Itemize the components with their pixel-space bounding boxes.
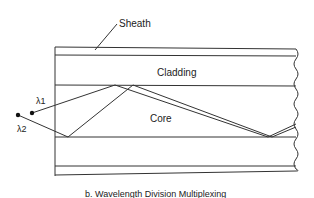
lambda2-ray <box>18 85 296 137</box>
cladding-label: Cladding <box>157 67 196 78</box>
sheath-top-inner <box>55 55 296 56</box>
core-label: Core <box>150 113 172 124</box>
figure-caption: b. Wavelength Division Multiplexing <box>85 189 226 198</box>
lambda1-label: λ1 <box>36 96 46 106</box>
sheath-label: Sheath <box>119 18 151 29</box>
lambda2-source-dot <box>16 113 20 117</box>
sheath-leader-line <box>95 24 117 50</box>
wdm-fiber-diagram: Sheath Cladding Core λ1 λ2 b. Wavelength… <box>0 0 314 198</box>
fiber-cut-edge <box>294 49 298 171</box>
lambda2-label: λ2 <box>17 124 27 134</box>
sheath-bottom-outer <box>55 171 296 175</box>
sheath-top-outer <box>55 47 296 49</box>
lambda1-ray <box>32 85 296 137</box>
lambda1-source-dot <box>30 111 34 115</box>
core-top-boundary <box>55 85 296 86</box>
